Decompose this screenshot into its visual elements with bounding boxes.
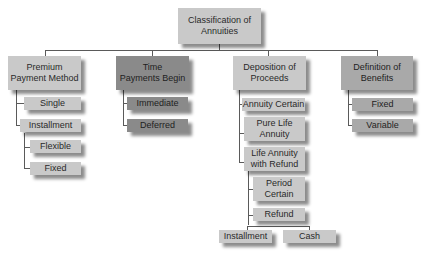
time-line2: Payments Begin [120,73,186,83]
flexible-label: Flexible [40,141,71,152]
pure-life-annuity-node: Pure LifeAnnuity [244,117,305,141]
def-fixed-node: Fixed [352,98,413,111]
refund-installment-node: Installment [219,230,272,243]
definition-line2: Benefits [361,73,394,83]
definition-of-benefits-node: Definition ofBenefits [341,56,413,90]
premium-line1: Premium [26,62,62,72]
definition-branch-line [348,90,349,126]
life-refund-line2: with Refund [251,159,299,169]
period-certain-node: PeriodCertain [253,177,305,201]
immediate-label: Immediate [136,98,178,109]
refund-split-line [247,226,309,227]
period-certain-line1: Period [266,178,292,188]
variable-label: Variable [366,120,398,131]
single-label: Single [40,98,65,109]
cash-label: Cash [299,231,320,242]
life-refund-branch-line [248,170,249,225]
deferred-node: Deferred [127,119,188,132]
time-line1: Time [143,62,163,72]
single-node: Single [24,97,81,110]
flexible-node: Flexible [30,140,81,153]
annuity-certain-node: Annuity Certain [242,98,305,111]
premium-single-tick [16,103,24,104]
time-branch-line [123,90,124,126]
refund-label: Refund [264,209,293,220]
level1-connector [45,50,378,51]
refund-installment-label: Installment [224,231,268,242]
installment-branch-line [24,133,25,169]
pure-life-line1: Pure Life [256,118,292,128]
annuity-certain-label: Annuity Certain [243,99,305,110]
time-payments-begin-node: TimePayments Begin [116,56,189,90]
premium-payment-method-node: PremiumPayment Method [8,56,81,90]
deposition-line2: Proceeds [250,73,288,83]
fixed-premium-label: Fixed [44,163,66,174]
root-line2: Annuities [201,26,238,36]
period-certain-line2: Certain [264,189,293,199]
refund-node: Refund [253,208,305,221]
premium-line2: Payment Method [10,73,78,83]
deferred-label: Deferred [140,120,175,131]
variable-node: Variable [352,119,413,132]
cash-node: Cash [283,230,336,243]
life-refund-line1: Life Annuity [251,148,298,158]
fixed-premium-node: Fixed [30,162,81,175]
root-node: Classification ofAnnuities [178,8,261,44]
life-annuity-with-refund-node: Life Annuitywith Refund [244,147,305,171]
deposition-line1: Deposition of [243,62,296,72]
installment-node: Installment [20,119,81,132]
deposition-of-proceeds-node: Deposition ofProceeds [233,56,306,90]
premium-branch-line [16,90,17,126]
immediate-node: Immediate [127,97,188,110]
installment-label: Installment [29,120,73,131]
pure-life-line2: Annuity [259,129,289,139]
deposition-branch-line [239,90,240,163]
definition-line1: Definition of [353,62,401,72]
def-fixed-label: Fixed [371,99,393,110]
root-line1: Classification of [188,15,251,25]
